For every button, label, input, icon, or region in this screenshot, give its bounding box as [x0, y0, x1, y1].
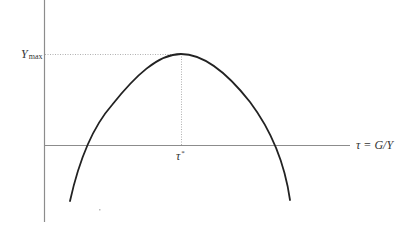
tau-star-symbol: τ [176, 149, 180, 163]
laffer-diagram: Ymax τ* τ = G/Y [0, 0, 414, 231]
x-axis-label-text: τ = G/Y [356, 138, 393, 152]
y-max-subscript: max [29, 52, 43, 61]
tau-star-label: τ* [176, 150, 185, 162]
laffer-curve [70, 54, 290, 201]
stray-mark [99, 209, 101, 211]
y-max-label: Ymax [21, 48, 42, 61]
y-max-symbol: Y [21, 47, 28, 61]
diagram-canvas [0, 0, 414, 231]
tau-star-superscript: * [181, 149, 185, 157]
x-axis-label: τ = G/Y [356, 139, 393, 151]
